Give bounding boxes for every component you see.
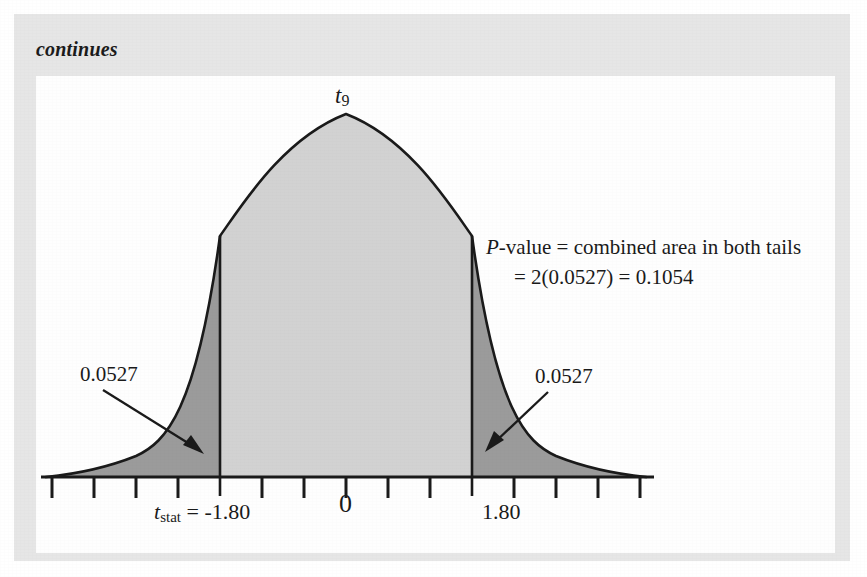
tstat-label-value: = -1.80	[181, 499, 250, 524]
tstat-label-subscript: stat	[160, 509, 181, 525]
left-tail-area-label: 0.0527	[80, 364, 138, 385]
curve-title: t9	[335, 84, 349, 109]
t-distribution-chart	[36, 76, 835, 553]
distribution-body-fill	[220, 114, 472, 477]
center-axis-label: 0	[339, 491, 352, 517]
chart-plot-panel: t9 P-value = combined area in both tails…	[36, 76, 835, 553]
p-value-annotation-line1: -value = combined area in both tails	[499, 235, 801, 259]
upper-critical-axis-label: 1.80	[482, 501, 521, 523]
p-value-symbol: P	[486, 235, 499, 259]
continues-note: continues	[36, 38, 118, 61]
p-value-annotation-line2: = 2(0.0527) = 0.1054	[486, 262, 801, 292]
figure-page: continues	[0, 0, 867, 577]
curve-title-subscript: 9	[341, 92, 349, 109]
tstat-axis-label: tstat = -1.80	[154, 501, 250, 525]
right-tail-area-label: 0.0527	[535, 366, 593, 387]
p-value-annotation: P-value = combined area in both tails= 2…	[486, 232, 801, 293]
